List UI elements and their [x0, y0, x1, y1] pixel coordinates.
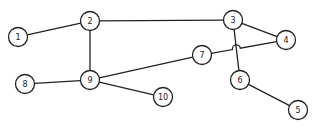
node-label: 1 [15, 33, 20, 42]
node-4: 4 [277, 31, 296, 50]
edge-9-7 [99, 57, 192, 78]
node-label: 9 [87, 76, 92, 85]
node-10: 10 [154, 88, 173, 107]
edge-6-5 [248, 84, 289, 105]
node-label: 3 [230, 16, 235, 25]
node-8: 8 [16, 75, 35, 94]
graph-diagram: 12345678910 [0, 0, 318, 130]
node-9: 9 [81, 71, 100, 90]
node-1: 1 [9, 28, 28, 47]
node-label: 7 [199, 51, 204, 60]
edge-9-10 [99, 82, 153, 95]
node-2: 2 [81, 12, 100, 31]
node-label: 10 [158, 93, 168, 102]
edge-9-8 [34, 81, 80, 84]
node-label: 2 [87, 17, 92, 26]
node-6: 6 [231, 71, 250, 90]
node-label: 5 [295, 106, 300, 115]
edge-7-4 [211, 42, 276, 54]
node-label: 6 [237, 76, 242, 85]
node-label: 4 [283, 36, 288, 45]
node-label: 8 [22, 80, 27, 89]
edge-3-4 [242, 23, 277, 36]
node-7: 7 [193, 46, 212, 65]
edge-1-2 [27, 23, 80, 35]
node-3: 3 [224, 11, 243, 30]
node-5: 5 [289, 101, 308, 120]
edge-3-6 [234, 29, 239, 70]
edge-2-3 [99, 20, 223, 21]
